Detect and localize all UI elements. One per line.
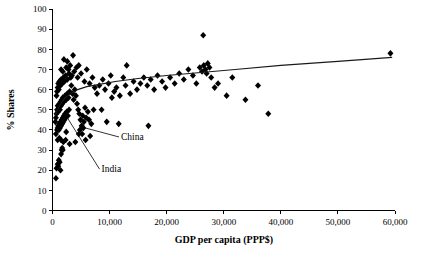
- y-tick-label: 20: [38, 165, 48, 175]
- data-point-marker: [124, 62, 130, 69]
- x-tick-label: 50,000: [326, 217, 351, 227]
- y-tick-label: 10: [38, 186, 48, 196]
- data-point-marker: [255, 82, 261, 89]
- data-point-marker: [63, 129, 69, 136]
- x-tick-label: 40,000: [268, 217, 293, 227]
- data-point-marker: [67, 141, 73, 148]
- data-point-marker: [81, 78, 87, 85]
- x-tick-label: 0: [50, 217, 55, 227]
- data-point-marker: [208, 74, 214, 81]
- data-point-marker: [193, 80, 199, 87]
- data-point-marker: [242, 96, 248, 103]
- data-point-marker: [109, 94, 115, 101]
- data-point-marker: [72, 139, 78, 146]
- data-point-marker: [176, 70, 182, 77]
- y-tick-label: 50: [38, 105, 48, 115]
- x-tick-label: 10,000: [97, 217, 122, 227]
- data-point-marker: [53, 175, 59, 182]
- data-point-marker: [185, 66, 191, 73]
- y-tick-label: 70: [38, 65, 48, 75]
- data-point-marker: [265, 110, 271, 117]
- data-point-marker: [137, 80, 143, 87]
- data-point-marker: [163, 84, 169, 91]
- data-point-marker: [99, 106, 105, 113]
- trend-line-layer: [55, 57, 392, 115]
- data-point-marker: [155, 72, 161, 79]
- data-point-marker: [83, 137, 89, 144]
- x-tick-label: 60,000: [383, 217, 408, 227]
- y-tick-label: 100: [33, 4, 47, 14]
- data-point-marker: [200, 32, 206, 39]
- scatter-plot-figure: ChinaIndia 0102030405060708090100 010,00…: [0, 0, 421, 260]
- data-point-marker: [108, 72, 114, 79]
- data-point-marker: [70, 52, 76, 59]
- y-tick-label: 90: [38, 24, 48, 34]
- x-axis-ticks: 010,00020,00030,00040,00050,00060,000: [50, 211, 408, 227]
- chart-canvas: ChinaIndia 0102030405060708090100 010,00…: [0, 0, 421, 260]
- data-point-marker: [224, 92, 230, 99]
- data-point-marker: [229, 74, 235, 81]
- data-point-marker: [144, 82, 150, 89]
- data-point-marker: [102, 86, 108, 93]
- data-point-marker: [123, 82, 129, 89]
- data-point-marker: [134, 86, 140, 93]
- data-point-marker: [91, 106, 97, 113]
- data-point-marker: [387, 50, 393, 57]
- x-tick-label: 30,000: [211, 217, 236, 227]
- data-point-marker: [181, 76, 187, 83]
- data-point-marker: [94, 90, 100, 97]
- data-point-marker: [87, 133, 93, 140]
- y-tick-label: 40: [38, 125, 48, 135]
- x-axis-title: GDP per capita (PPP$): [175, 234, 273, 246]
- annotation-label-china: China: [121, 132, 144, 142]
- y-axis-title: % Shares: [5, 89, 16, 130]
- data-point-marker: [127, 90, 133, 97]
- data-point-marker: [159, 78, 165, 85]
- annotation-layer: ChinaIndia: [67, 118, 144, 174]
- data-point-marker: [151, 86, 157, 93]
- data-point-marker: [104, 119, 110, 126]
- x-tick-label: 20,000: [154, 217, 179, 227]
- data-point-marker: [172, 80, 178, 87]
- y-tick-label: 30: [38, 145, 48, 155]
- y-tick-label: 80: [38, 45, 48, 55]
- data-point-marker: [100, 76, 106, 83]
- data-point-marker: [116, 121, 122, 128]
- data-point-marker: [89, 74, 95, 81]
- data-point-marker: [84, 66, 90, 73]
- y-tick-label: 0: [42, 206, 47, 216]
- annotation-label-india: India: [102, 164, 122, 174]
- trend-line: [55, 57, 392, 115]
- data-point-marker: [145, 123, 151, 130]
- y-axis-ticks: 0102030405060708090100: [33, 4, 53, 216]
- data-points-layer: [52, 32, 393, 182]
- y-tick-label: 60: [38, 85, 48, 95]
- data-point-marker: [117, 92, 123, 99]
